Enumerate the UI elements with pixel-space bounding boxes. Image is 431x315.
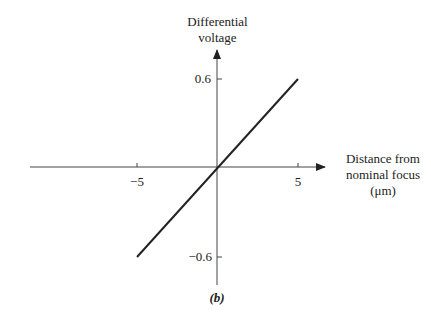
y-tick-label-neg0.6: −0.6 — [172, 249, 212, 265]
y-axis-label: Differential voltage — [165, 14, 270, 46]
y-label-line2: voltage — [165, 30, 270, 46]
figure-caption: (b) — [197, 290, 237, 306]
x-label-line1: Distance from — [335, 151, 431, 167]
y-tick-label-0.6: 0.6 — [183, 71, 211, 87]
x-tick-label-neg5: −5 — [122, 174, 152, 190]
y-label-line1: Differential — [165, 14, 270, 30]
x-tick-label-5: 5 — [288, 174, 308, 190]
x-label-line3: (μm) — [335, 183, 431, 199]
x-label-line2: nominal focus — [335, 167, 431, 183]
x-axis-label: Distance from nominal focus (μm) — [335, 151, 431, 199]
